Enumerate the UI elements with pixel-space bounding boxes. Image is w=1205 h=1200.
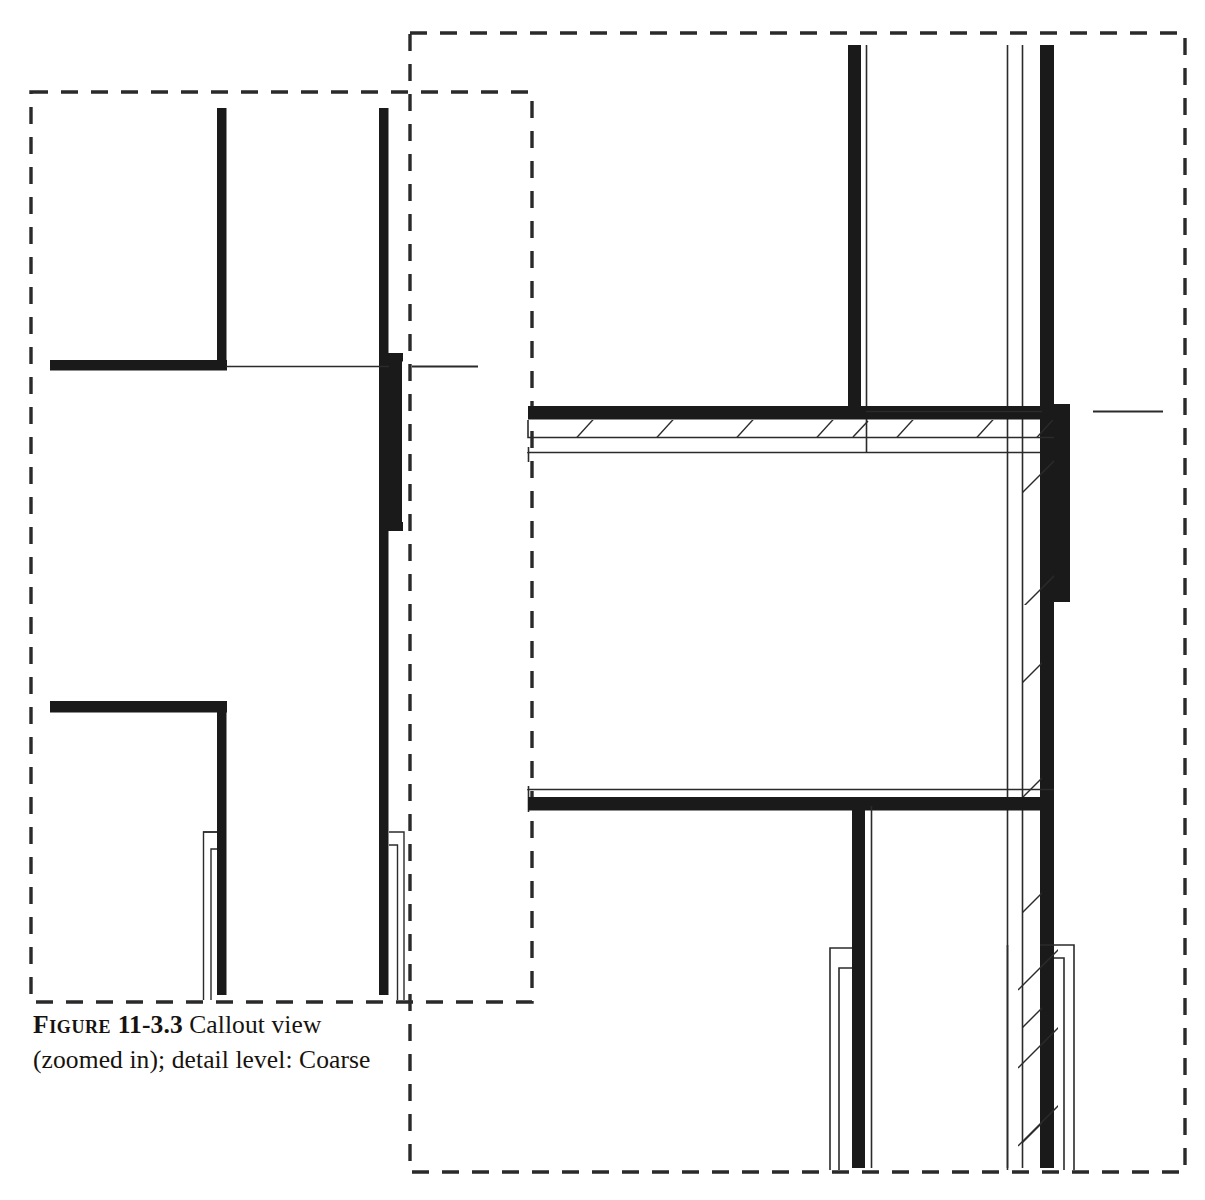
figure-number: 11-3.3: [118, 1010, 183, 1039]
floor-slab-upper: [528, 406, 1054, 420]
figure-container: Figure 11-3.3 Callout view (zoomed in); …: [0, 0, 1205, 1200]
wall-exterior-jog-block-layered: [1054, 410, 1070, 595]
wall-exterior-right-stepped-layered: [1040, 45, 1070, 1168]
floor-hatch-layer-upper-outline: [528, 420, 1054, 438]
wall-exterior-right-jog-block: [389, 357, 403, 529]
figure-caption: Figure 11-3.3 Callout view (zoomed in); …: [33, 1008, 463, 1077]
wall-interior-left-lower: [217, 701, 227, 995]
mullion-right-inner-profile: [389, 845, 398, 1000]
mullion-r-right-inner-profile: [1054, 958, 1064, 1170]
mullion-left-outer-profile: [204, 832, 218, 1000]
wall-floor-band-upper: [50, 360, 227, 371]
mullion-right-outer-profile: [389, 832, 404, 1000]
left-panel-coarse-geometry: [50, 108, 478, 1000]
mullion-left-inner-profile: [211, 849, 217, 1000]
wall-interior-left-upper: [217, 108, 227, 370]
figure-caption-line-1: Callout view: [189, 1010, 321, 1039]
window-mullions-left: [203, 832, 404, 1000]
mullion-r-left-inner-profile: [839, 968, 852, 1170]
floor-soffit-line-upper: [528, 452, 1040, 453]
mullion-r-left-outer-profile: [830, 948, 852, 1170]
window-mullions-right: [830, 945, 1074, 1170]
figure-label: Figure: [33, 1010, 111, 1039]
wall-floor-band-lower: [50, 701, 227, 713]
right-panel-layered-geometry: [528, 45, 1163, 1170]
wall-exterior-right-stepped: [379, 108, 403, 995]
wall-interior-partition-upper: [848, 45, 861, 415]
wall-interior-partition-lower: [852, 797, 865, 1168]
floor-ceiling-line-lower: [528, 789, 1054, 790]
figure-caption-line-2: (zoomed in); detail level: Coarse: [33, 1043, 463, 1078]
floor-slab-lower: [528, 797, 1054, 811]
left-callout-boundary: [31, 92, 532, 1002]
